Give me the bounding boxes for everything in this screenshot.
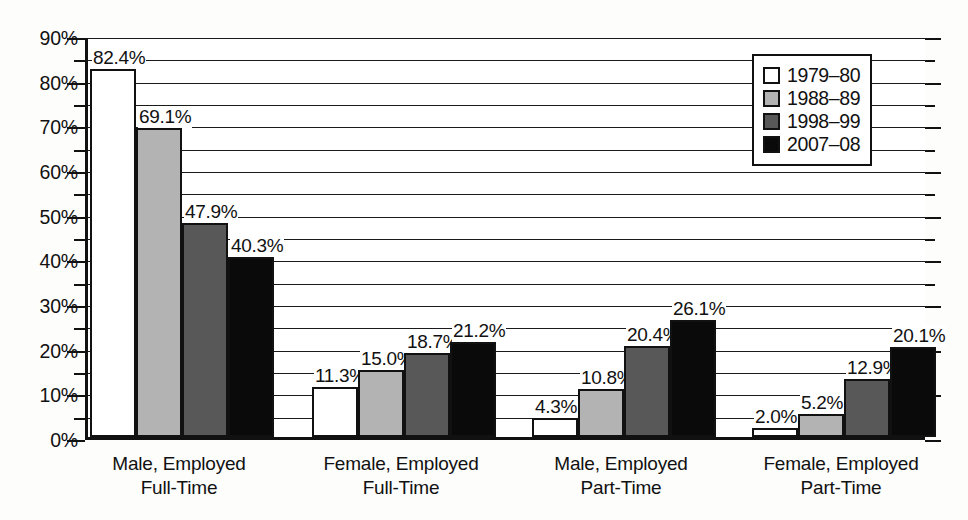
- bar-value-label: 20.1%: [892, 325, 946, 347]
- legend-item: 1998–99: [763, 110, 860, 133]
- bar: [752, 428, 798, 437]
- legend: 1979–801988–891998–992007–08: [752, 54, 872, 166]
- x-axis-group-label-line2: Full-Time: [289, 476, 513, 500]
- x-axis-group-label: Female, EmployedPart-Time: [729, 452, 953, 500]
- bar-value-label: 26.1%: [672, 298, 726, 320]
- bar: [844, 379, 890, 437]
- y-axis-major-tick: [67, 351, 85, 353]
- legend-item: 1988–89: [763, 87, 860, 110]
- y-axis-minor-tick: [74, 418, 85, 420]
- legend-swatch-light-gray: [763, 90, 780, 107]
- legend-swatch-white: [763, 67, 780, 84]
- bar: [182, 223, 228, 437]
- legend-item: 1979–80: [763, 64, 860, 87]
- bar-value-label: 4.3%: [534, 396, 578, 418]
- y-axis-minor-tick: [74, 60, 85, 62]
- y-axis-major-tick: [67, 395, 85, 397]
- bar-value-label: 69.1%: [138, 106, 192, 128]
- bar: [228, 257, 274, 437]
- y-axis-minor-tick: [74, 105, 85, 107]
- legend-item-label: 1979–80: [787, 64, 860, 87]
- bar-value-label: 5.2%: [800, 392, 844, 414]
- y-axis-major-tick: [67, 38, 85, 40]
- bar: [890, 347, 936, 437]
- bar: [578, 389, 624, 437]
- bar: [798, 414, 844, 437]
- x-axis-group-label-line2: Part-Time: [509, 476, 733, 500]
- x-axis-group-label: Female, EmployedFull-Time: [289, 452, 513, 500]
- y-axis-minor-tick: [74, 239, 85, 241]
- bar-value-label: 40.3%: [230, 235, 284, 257]
- x-axis-group-label-line2: Full-Time: [67, 476, 291, 500]
- bar-value-label: 82.4%: [92, 47, 146, 69]
- y-axis-minor-tick: [74, 328, 85, 330]
- bar-value-label: 2.0%: [754, 406, 798, 428]
- x-axis-group-label: Male, EmployedPart-Time: [509, 452, 733, 500]
- bar-chart: 90%80%70%60%50%40%30%20%10%0% 82.4%69.1%…: [0, 0, 968, 520]
- gridline: [88, 172, 928, 173]
- bar: [358, 370, 404, 437]
- bar: [404, 353, 450, 437]
- bar: [136, 128, 182, 437]
- bar: [624, 346, 670, 437]
- x-axis-group-label-line1: Male, Employed: [509, 452, 733, 476]
- bar: [90, 69, 136, 437]
- legend-item: 2007–08: [763, 133, 860, 156]
- legend-swatch-black: [763, 136, 780, 153]
- legend-item-label: 2007–08: [787, 133, 860, 156]
- y-axis-major-tick: [67, 217, 85, 219]
- y-axis-minor-tick: [74, 373, 85, 375]
- x-axis-group-label-line1: Female, Employed: [289, 452, 513, 476]
- y-axis-major-tick: [67, 261, 85, 263]
- right-axis-major-tick: [925, 440, 941, 442]
- x-axis-group-label-line1: Male, Employed: [67, 452, 291, 476]
- bar: [532, 418, 578, 437]
- legend-swatch-dark-gray: [763, 113, 780, 130]
- bar: [312, 387, 358, 437]
- x-axis-group-label-line2: Part-Time: [729, 476, 953, 500]
- y-axis-major-tick: [67, 83, 85, 85]
- y-axis-major-tick: [67, 172, 85, 174]
- y-axis-minor-tick: [74, 150, 85, 152]
- x-axis-group-label: Male, EmployedFull-Time: [67, 452, 291, 500]
- y-axis-major-tick: [67, 440, 85, 442]
- bar: [670, 320, 716, 437]
- y-axis-major-tick: [67, 127, 85, 129]
- gridline: [88, 194, 928, 195]
- y-axis-minor-tick: [74, 284, 85, 286]
- legend-item-label: 1988–89: [787, 87, 860, 110]
- bar-value-label: 21.2%: [452, 320, 506, 342]
- x-axis-group-label-line1: Female, Employed: [729, 452, 953, 476]
- y-axis-major-tick: [67, 306, 85, 308]
- y-axis-minor-tick: [74, 194, 85, 196]
- bar: [450, 342, 496, 437]
- legend-item-label: 1998–99: [787, 110, 860, 133]
- bar-value-label: 47.9%: [184, 201, 238, 223]
- gridline: [88, 38, 928, 39]
